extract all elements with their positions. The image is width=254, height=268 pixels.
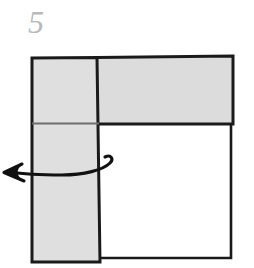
lower-right-white-panel	[99, 124, 231, 258]
top-horizontal-shaded-band	[97, 56, 233, 124]
origami-step-diagram: 5	[0, 0, 254, 268]
paper-figure	[0, 0, 254, 268]
left-vertical-shaded-flap	[32, 58, 100, 263]
